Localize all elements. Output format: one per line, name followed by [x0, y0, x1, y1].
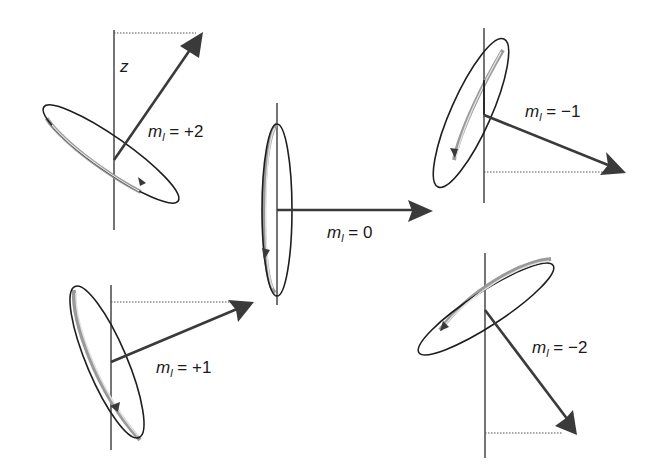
- angular-momentum-diagram: z ml = +2 ml = 0 ml = −1: [0, 0, 655, 476]
- angular-momentum-vector: [485, 310, 568, 420]
- panel-ml-0: ml = 0: [262, 103, 433, 305]
- panel-ml-minus-2: ml = −2: [410, 251, 588, 458]
- panel-ml-minus-1: ml = −1: [420, 28, 626, 203]
- ml-label: ml = −2: [532, 338, 587, 359]
- vector-arrowhead-icon: [555, 410, 577, 435]
- panel-ml-plus-2: z ml = +2: [34, 30, 203, 230]
- ml-label: ml = −1: [525, 102, 580, 123]
- vector-arrowhead-icon: [180, 32, 203, 58]
- angular-momentum-vector: [111, 309, 237, 362]
- angular-momentum-vector: [484, 115, 608, 165]
- rotation-direction-arrow-icon: [138, 177, 146, 186]
- ml-label: ml = 0: [327, 223, 372, 244]
- precession-ellipse: [420, 31, 522, 195]
- panel-ml-plus-1: ml = +1: [57, 279, 254, 450]
- z-axis-label: z: [119, 57, 129, 76]
- precession-ellipse: [34, 93, 188, 215]
- ml-label: ml = +2: [148, 122, 203, 143]
- ml-label: ml = +1: [156, 358, 211, 379]
- precession-ellipse: [57, 279, 158, 446]
